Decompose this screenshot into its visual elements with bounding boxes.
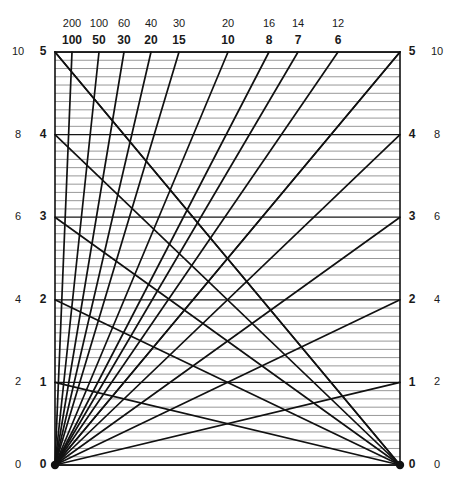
top-scale-upper-label: 20: [222, 17, 234, 29]
right-outer-axis-label: 0: [434, 458, 440, 470]
left-inner-axis-label: 0: [40, 457, 47, 471]
right-inner-axis-label: 1: [409, 375, 416, 389]
left-outer-axis-label: 10: [12, 45, 24, 57]
top-scale-upper-label: 200: [63, 17, 81, 29]
right-outer-axis-label: 4: [434, 293, 440, 305]
left-inner-axis-label: 5: [40, 44, 47, 58]
right-inner-axis-label: 4: [409, 127, 416, 141]
top-scale-upper-label: 14: [292, 17, 304, 29]
top-scale-lower-label: 15: [172, 33, 186, 47]
top-scale-upper-label: 30: [173, 17, 185, 29]
top-scale-lower-label: 100: [62, 33, 82, 47]
left-inner-axis-label: 2: [40, 292, 47, 306]
top-scale-upper-label: 60: [118, 17, 130, 29]
left-outer-axis-label: 6: [15, 210, 21, 222]
right-outer-axis-label: 8: [434, 128, 440, 140]
origin-node-right: [396, 461, 404, 469]
top-scale-upper-label: 16: [263, 17, 275, 29]
left-inner-axis-label: 1: [40, 375, 47, 389]
right-outer-axis-label: 2: [434, 375, 440, 387]
left-outer-axis-label: 4: [15, 293, 21, 305]
top-scale-upper-label: 100: [90, 17, 108, 29]
left-inner-axis-label: 4: [40, 127, 47, 141]
right-inner-axis-label: 0: [409, 457, 416, 471]
right-inner-axis-label: 5: [409, 44, 416, 58]
top-scale-lower-label: 30: [117, 33, 131, 47]
left-inner-axis-label: 3: [40, 209, 47, 223]
top-scale-lower-label: 10: [221, 33, 235, 47]
top-scale-lower-label: 7: [295, 33, 302, 47]
right-outer-axis-label: 6: [434, 210, 440, 222]
right-outer-axis-label: 10: [431, 45, 443, 57]
right-inner-axis-label: 2: [409, 292, 416, 306]
left-outer-axis-label: 0: [15, 458, 21, 470]
right-inner-axis-label: 3: [409, 209, 416, 223]
top-scale-lower-label: 6: [335, 33, 342, 47]
left-outer-axis-label: 8: [15, 128, 21, 140]
top-scale-upper-label: 12: [332, 17, 344, 29]
top-scale-lower-label: 8: [266, 33, 273, 47]
top-scale-lower-label: 20: [144, 33, 158, 47]
top-scale-lower-label: 50: [92, 33, 106, 47]
origin-node-left: [51, 461, 59, 469]
left-outer-axis-label: 2: [15, 375, 21, 387]
top-scale-upper-label: 40: [145, 17, 157, 29]
nomogram-svg: 2001001005060304020301520101681471260123…: [0, 0, 460, 498]
nomogram-chart: 2001001005060304020301520101681471260123…: [0, 0, 460, 498]
